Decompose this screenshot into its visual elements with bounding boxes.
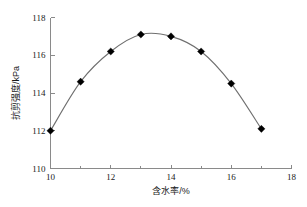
x-tick-label: 18	[287, 172, 297, 182]
x-tick-label: 12	[106, 172, 115, 182]
x-tick-label: 16	[227, 172, 237, 182]
x-axis-tick-labels: 1012141618	[46, 172, 297, 182]
x-axis-title: 含水率/%	[152, 185, 190, 196]
chart-canvas: 110112114116118 1012141618 含水率/% 抗剪强度/kP…	[0, 0, 307, 207]
x-tick-label: 10	[46, 172, 56, 182]
data-series-markers	[47, 31, 265, 134]
data-point-marker	[137, 31, 144, 38]
y-tick-label: 110	[32, 164, 46, 174]
y-tick-label: 112	[32, 126, 45, 136]
y-axis-tick-labels: 110112114116118	[32, 13, 46, 174]
data-point-marker	[258, 125, 265, 132]
data-point-marker	[167, 33, 174, 40]
x-tick-label: 14	[167, 172, 177, 182]
y-tick-label: 114	[32, 88, 46, 98]
y-tick-label: 118	[32, 13, 46, 23]
y-axis-title: 抗剪强度/kPa	[10, 66, 21, 120]
data-point-marker	[47, 127, 54, 134]
y-tick-label: 116	[32, 50, 46, 60]
chart-figure: 110112114116118 1012141618 含水率/% 抗剪强度/kP…	[0, 0, 307, 207]
